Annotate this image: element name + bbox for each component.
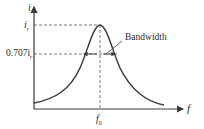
x-axis-label: f: [187, 103, 190, 114]
center-freq-label: f0: [96, 114, 102, 126]
peak-label: ir: [24, 20, 29, 32]
half-power-label: 0.707ir: [6, 49, 32, 60]
bandwidth-label: Bandwidth: [125, 33, 167, 43]
resonance-diagram: [0, 0, 204, 129]
y-axis-label: i: [28, 3, 31, 13]
